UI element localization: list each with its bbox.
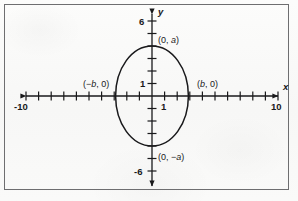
annotation-bottom-vertex: (0, −a) [158,153,184,162]
y-tick-label-1: 1 [140,79,145,89]
annotation-right-vertex: (b, 0) [197,80,218,89]
y-axis-label: y [158,7,163,17]
plot-canvas [0,0,298,201]
annotation-top-vertex: (0, a) [158,36,179,45]
y-axis [148,14,157,186]
x-axis-label: x [283,82,288,92]
x-tick-label-10: 10 [271,102,282,112]
x-tick-label-minus-10: -10 [14,102,28,112]
ellipse-coordinate-plot: x y -10 10 1 6 -6 1 (0, a) (0, −a) (−b, … [0,0,298,201]
y-tick-label-6: 6 [139,17,144,27]
annotation-left-vertex: (−b, 0) [83,80,109,89]
x-tick-label-1: 1 [161,102,166,112]
y-tick-label-minus-6: -6 [134,167,142,177]
